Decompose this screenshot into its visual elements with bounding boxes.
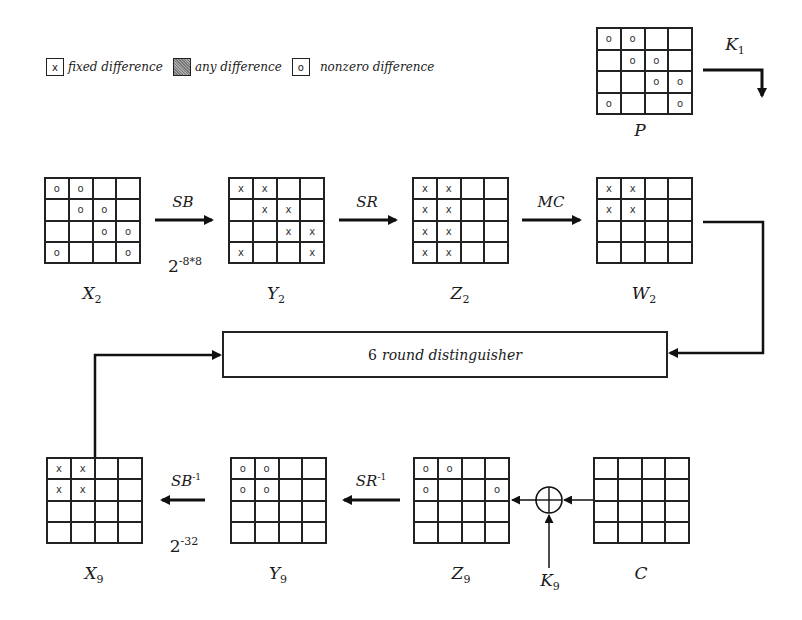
state-cell: x bbox=[71, 479, 95, 500]
state-cell bbox=[47, 522, 71, 543]
state-cell bbox=[665, 479, 689, 500]
label-p: P bbox=[610, 120, 670, 140]
state-cell: o bbox=[668, 93, 692, 115]
state-cell: o bbox=[414, 458, 438, 479]
state-cell: o bbox=[485, 479, 509, 500]
state-cell bbox=[597, 242, 621, 263]
label-x9: X9 bbox=[64, 563, 124, 586]
state-cell bbox=[116, 199, 140, 220]
state-cell: o bbox=[93, 199, 117, 220]
state-cell bbox=[665, 501, 689, 522]
state-cell bbox=[414, 522, 438, 543]
state-cell: o bbox=[255, 458, 279, 479]
state-cell bbox=[95, 501, 119, 522]
state-cell bbox=[255, 522, 279, 543]
state-cell bbox=[462, 522, 486, 543]
state-cell: o bbox=[645, 71, 669, 93]
state-cell bbox=[95, 458, 119, 479]
op-mc-label: MC bbox=[516, 193, 586, 211]
op-sr-label: SR bbox=[332, 193, 402, 211]
prob-sb: 2-8*8 bbox=[145, 255, 225, 276]
distinguisher-count: 6 bbox=[368, 347, 377, 363]
state-cell bbox=[118, 479, 142, 500]
state-cell bbox=[668, 242, 692, 263]
state-cell: o bbox=[45, 178, 69, 199]
state-cell: x bbox=[300, 221, 324, 242]
state-cell bbox=[255, 501, 279, 522]
state-cell: x bbox=[253, 178, 277, 199]
state-cell bbox=[461, 242, 485, 263]
state-cell bbox=[461, 221, 485, 242]
state-cell bbox=[302, 501, 326, 522]
state-cell bbox=[279, 479, 303, 500]
state-cell bbox=[461, 178, 485, 199]
op-sr-inv-label: SR-1 bbox=[336, 472, 406, 490]
label-k9: K9 bbox=[520, 570, 580, 593]
state-cell bbox=[484, 242, 508, 263]
state-cell: x bbox=[413, 199, 437, 220]
state-cell bbox=[597, 221, 621, 242]
op-sb-label: SB bbox=[148, 193, 218, 211]
state-cell: x bbox=[437, 242, 461, 263]
state-cell bbox=[642, 479, 666, 500]
state-cell: o bbox=[231, 479, 255, 500]
state-cell bbox=[279, 501, 303, 522]
state-cell: x bbox=[597, 178, 621, 199]
label-z9: Z9 bbox=[431, 563, 491, 586]
state-cell: o bbox=[597, 28, 621, 50]
state-cell bbox=[69, 242, 93, 263]
state-cell bbox=[485, 501, 509, 522]
state-cell bbox=[484, 199, 508, 220]
state-cell bbox=[462, 479, 486, 500]
state-cell: x bbox=[437, 221, 461, 242]
label-z2: Z2 bbox=[430, 283, 490, 306]
state-cell: o bbox=[645, 50, 669, 72]
state-cell bbox=[621, 221, 645, 242]
state-cell bbox=[302, 458, 326, 479]
state-cell bbox=[462, 458, 486, 479]
state-cell bbox=[642, 522, 666, 543]
state-grid-z9: oooo bbox=[413, 457, 510, 544]
state-cell bbox=[618, 479, 642, 500]
state-cell bbox=[642, 458, 666, 479]
state-cell: x bbox=[47, 479, 71, 500]
state-cell bbox=[645, 199, 669, 220]
prob-sb-inv: 2-32 bbox=[144, 535, 224, 556]
state-cell bbox=[253, 221, 277, 242]
state-cell: x bbox=[437, 178, 461, 199]
state-cell: o bbox=[414, 479, 438, 500]
state-cell bbox=[597, 71, 621, 93]
state-grid-c bbox=[593, 457, 690, 544]
state-cell bbox=[279, 458, 303, 479]
state-cell: x bbox=[229, 242, 253, 263]
state-cell: x bbox=[413, 221, 437, 242]
state-cell bbox=[118, 501, 142, 522]
state-cell bbox=[45, 221, 69, 242]
state-cell bbox=[229, 199, 253, 220]
state-cell bbox=[277, 178, 301, 199]
state-cell bbox=[645, 242, 669, 263]
state-cell bbox=[485, 522, 509, 543]
state-cell bbox=[438, 501, 462, 522]
state-cell bbox=[668, 28, 692, 50]
state-cell bbox=[645, 28, 669, 50]
state-grid-y2: xxxxxxxx bbox=[228, 177, 325, 264]
state-cell: x bbox=[229, 178, 253, 199]
state-cell bbox=[93, 242, 117, 263]
label-k1: K1 bbox=[705, 34, 765, 57]
xor-icon bbox=[536, 487, 562, 513]
state-grid-p: oooooooo bbox=[596, 27, 693, 115]
state-cell bbox=[302, 479, 326, 500]
state-cell bbox=[665, 522, 689, 543]
state-cell: o bbox=[45, 242, 69, 263]
state-grid-x9: xxxx bbox=[46, 457, 143, 544]
state-cell: o bbox=[255, 479, 279, 500]
state-cell bbox=[231, 501, 255, 522]
distinguisher-box: 6 round distinguisher bbox=[222, 331, 668, 378]
state-cell bbox=[668, 221, 692, 242]
state-cell bbox=[642, 501, 666, 522]
state-cell bbox=[597, 50, 621, 72]
state-cell: x bbox=[300, 242, 324, 263]
state-cell bbox=[645, 93, 669, 115]
state-cell bbox=[484, 178, 508, 199]
